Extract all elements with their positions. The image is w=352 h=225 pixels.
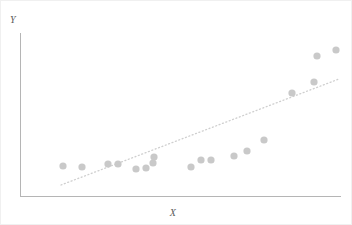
scatter-point bbox=[260, 136, 267, 143]
scatter-point bbox=[310, 78, 317, 85]
scatter-point bbox=[142, 164, 149, 171]
scatter-point bbox=[132, 165, 139, 172]
plot-canvas: Y X bbox=[1, 1, 352, 225]
y-axis-label: Y bbox=[10, 14, 17, 25]
scatter-point bbox=[243, 147, 250, 154]
scatter-point bbox=[288, 89, 295, 96]
scatter-point bbox=[313, 52, 320, 59]
x-axis-label: X bbox=[169, 207, 177, 218]
scatter-point bbox=[104, 160, 111, 167]
scatter-point bbox=[59, 162, 66, 169]
scatter-plot-figure: Y X bbox=[0, 0, 352, 225]
scatter-point bbox=[187, 163, 194, 170]
scatter-point bbox=[150, 153, 157, 160]
scatter-point bbox=[78, 163, 85, 170]
scatter-point bbox=[207, 156, 214, 163]
scatter-point bbox=[332, 46, 339, 53]
scatter-point bbox=[149, 159, 156, 166]
scatter-point bbox=[114, 160, 121, 167]
trend-line bbox=[61, 79, 339, 185]
scatter-point-group bbox=[59, 46, 339, 172]
scatter-point bbox=[230, 152, 237, 159]
scatter-point bbox=[197, 156, 204, 163]
